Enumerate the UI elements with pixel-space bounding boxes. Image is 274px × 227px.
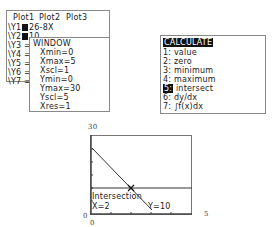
y6-label[interactable]: \Y6 =: [8, 68, 31, 77]
xres-field[interactable]: Xres=1: [40, 102, 71, 111]
calculate-title: CALCULATE: [163, 38, 213, 47]
equals-selected-icon[interactable]: [22, 33, 28, 40]
ymax-label: 30: [88, 123, 97, 132]
graph-screen: Intersection X=2 Y=10: [90, 135, 192, 215]
calculate-menu: CALCULATE 1: value 2: zero 3: minimum 4:…: [160, 35, 266, 114]
y7-label[interactable]: \Y7 =: [8, 77, 31, 86]
y3-label[interactable]: \Y3 =: [8, 41, 31, 50]
equals-selected-icon[interactable]: [22, 24, 28, 31]
y2-label: \Y2: [8, 32, 29, 41]
intersection-label: Intersection: [92, 192, 142, 201]
xscl-field[interactable]: Xscl=1: [40, 66, 69, 75]
y1-label: \Y1: [8, 23, 29, 32]
yscl-field[interactable]: Yscl=5: [40, 93, 69, 102]
xmax-label: 5: [204, 210, 209, 219]
menu-item-value[interactable]: 1: value: [163, 48, 197, 57]
xmin-label: 0: [90, 219, 95, 227]
window-settings: WINDOW Xmin=0 Xmax=5 Xscl=1 Ymin=0 Ymax=…: [29, 37, 110, 112]
menu-item-intersect[interactable]: 5: intersect: [163, 84, 213, 93]
plot3-tab[interactable]: Plot3: [66, 13, 87, 22]
intersection-x-value: X=2: [92, 202, 110, 211]
y4-label[interactable]: \Y4 =: [8, 50, 31, 59]
intersection-y-value: Y=10: [148, 202, 171, 211]
xmin-field[interactable]: Xmin=0: [40, 48, 74, 57]
plot2-tab[interactable]: Plot2: [39, 13, 60, 22]
plot1-tab[interactable]: Plot1: [13, 13, 34, 22]
ymin-label: 0: [83, 212, 88, 221]
xmax-field[interactable]: Xmax=5: [40, 57, 76, 66]
y5-label[interactable]: \Y5 =: [8, 59, 31, 68]
menu-item-integral[interactable]: 7: ∫f(x)dx: [163, 102, 203, 111]
menu-item-minimum[interactable]: 3: minimum: [163, 66, 213, 75]
menu-item-zero[interactable]: 2: zero: [163, 57, 192, 66]
menu-item-dydx[interactable]: 6: dy/dx: [163, 93, 197, 102]
y1-expression[interactable]: 26-8X: [29, 23, 54, 32]
ymin-field[interactable]: Ymin=0: [40, 75, 73, 84]
window-title: WINDOW: [33, 39, 71, 48]
menu-item-maximum[interactable]: 4: maximum: [163, 75, 216, 84]
ymax-field[interactable]: Ymax=30: [40, 84, 81, 93]
